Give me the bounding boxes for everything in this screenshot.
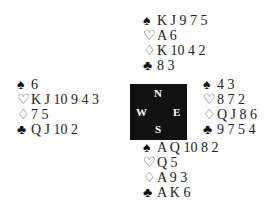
west-spades: 6 (31, 77, 38, 92)
south-clubs-row: ♣A K 6 (143, 185, 218, 200)
diamond-icon: ♢ (143, 43, 157, 58)
west-diamonds-row: ♢7 5 (17, 107, 99, 122)
south-clubs: A K 6 (157, 185, 190, 200)
north-clubs-row: ♣8 3 (143, 58, 208, 73)
club-icon: ♣ (203, 122, 217, 137)
north-diamonds-row: ♢K 10 4 2 (143, 43, 208, 58)
heart-icon: ♡ (143, 155, 157, 170)
spade-icon: ♠ (143, 13, 157, 28)
east-hearts-row: ♡8 7 2 (203, 92, 257, 107)
spade-icon: ♠ (203, 77, 217, 92)
compass-box: N W E S (130, 84, 187, 140)
compass-east: E (173, 106, 180, 118)
compass-west: W (136, 106, 147, 118)
south-diamonds-row: ♢A 9 3 (143, 170, 218, 185)
east-diamonds-row: ♢Q J 8 6 (203, 107, 257, 122)
compass-north: N (154, 87, 162, 99)
diamond-icon: ♢ (203, 107, 217, 122)
east-hearts: 8 7 2 (217, 92, 245, 107)
west-clubs: Q J 10 2 (31, 122, 78, 137)
club-icon: ♣ (17, 122, 31, 137)
north-spades-row: ♠K J 9 7 5 (143, 13, 208, 28)
north-diamonds: K 10 4 2 (157, 43, 206, 58)
heart-icon: ♡ (143, 28, 157, 43)
south-hearts-row: ♡Q 5 (143, 155, 218, 170)
west-clubs-row: ♣Q J 10 2 (17, 122, 99, 137)
compass-south: S (155, 123, 161, 135)
east-hand: ♠4 3 ♡8 7 2 ♢Q J 8 6 ♣9 7 5 4 (203, 77, 257, 137)
south-spades-row: ♠A Q 10 8 2 (143, 140, 218, 155)
east-diamonds: Q J 8 6 (217, 107, 257, 122)
spade-icon: ♠ (17, 77, 31, 92)
club-icon: ♣ (143, 185, 157, 200)
south-hearts: Q 5 (157, 155, 178, 170)
north-hearts-row: ♡A 6 (143, 28, 208, 43)
west-diamonds: 7 5 (31, 107, 49, 122)
west-hearts: K J 10 9 4 3 (31, 92, 99, 107)
club-icon: ♣ (143, 58, 157, 73)
heart-icon: ♡ (203, 92, 217, 107)
diamond-icon: ♢ (143, 170, 157, 185)
heart-icon: ♡ (17, 92, 31, 107)
north-hand: ♠K J 9 7 5 ♡A 6 ♢K 10 4 2 ♣8 3 (143, 13, 208, 73)
west-spades-row: ♠6 (17, 77, 99, 92)
east-spades: 4 3 (217, 77, 235, 92)
south-diamonds: A 9 3 (157, 170, 187, 185)
spade-icon: ♠ (143, 140, 157, 155)
south-spades: A Q 10 8 2 (157, 140, 218, 155)
east-clubs: 9 7 5 4 (217, 122, 256, 137)
west-hearts-row: ♡K J 10 9 4 3 (17, 92, 99, 107)
east-clubs-row: ♣9 7 5 4 (203, 122, 257, 137)
east-spades-row: ♠4 3 (203, 77, 257, 92)
west-hand: ♠6 ♡K J 10 9 4 3 ♢7 5 ♣Q J 10 2 (17, 77, 99, 137)
north-spades: K J 9 7 5 (157, 13, 208, 28)
south-hand: ♠A Q 10 8 2 ♡Q 5 ♢A 9 3 ♣A K 6 (143, 140, 218, 200)
north-clubs: 8 3 (157, 58, 175, 73)
north-hearts: A 6 (157, 28, 177, 43)
diamond-icon: ♢ (17, 107, 31, 122)
